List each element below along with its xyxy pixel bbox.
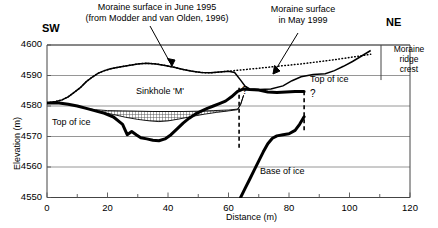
gridlines [47,45,410,167]
x-tick-label-40: 40 [159,202,177,213]
y-tick-label-4600: 4600 [14,38,42,49]
question-mark-left: ? [242,85,248,96]
moraine-ridge-crest-line3: crest [383,64,435,74]
moraine-1995-annotation: Moraine surface in June 1995 (from Modde… [62,2,252,24]
moraine-ridge-crest-line2: ridge [383,54,435,64]
moraine-ridge-crest-label: Moraine ridge crest [383,44,435,74]
moraine-1999-annotation-line2: in May 1999 [248,15,358,26]
x-tick-label-20: 20 [99,202,117,213]
x-tick-label-0: 0 [38,202,56,213]
y-tick-label-4560: 4560 [14,160,42,171]
y-tick-label-4550: 4550 [14,191,42,202]
plot-frame [47,45,410,198]
y-tick-label-4590: 4590 [14,69,42,80]
axis-ticks [47,45,410,198]
top-of-ice-left-label: Top of ice [52,117,91,127]
moraine-1995-annotation-line2: (from Modder and van Olden, 1996) [62,13,252,24]
arrowhead-1995 [168,59,176,67]
sinkhole-label: Sinkhole 'M' [136,86,184,96]
y-tick-label-4580: 4580 [14,99,42,110]
cross-section-plot [0,0,438,228]
question-mark-right: ? [310,88,316,99]
moraine-ridge-crest-line1: Moraine [383,44,435,54]
y-tick-label-4570: 4570 [14,130,42,141]
direction-label-sw: SW [42,22,60,34]
moraine-1995-annotation-line1: Moraine surface in June 1995 [62,2,252,13]
x-tick-label-100: 100 [341,202,359,213]
x-tick-label-120: 120 [401,202,419,213]
base-of-ice-label: Base of ice [260,166,305,176]
top-of-ice-right-label: Top of ice [310,74,349,84]
direction-label-ne: NE [386,16,401,28]
base-of-ice-line [241,117,305,198]
moraine-1999-annotation: Moraine surface in May 1999 [248,4,358,26]
x-tick-label-80: 80 [280,202,298,213]
sinkhole-fill-area [77,95,243,121]
x-tick-label-60: 60 [220,202,238,213]
moraine-1999-annotation-line1: Moraine surface [248,4,358,15]
cross-section-figure: SW NE Moraine surface in June 1995 (from… [0,0,438,228]
x-axis-title: Distance (m) [226,212,277,222]
